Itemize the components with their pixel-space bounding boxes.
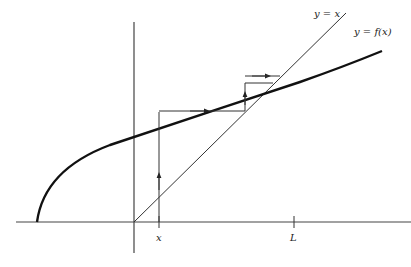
curve-label: y = f(x) (354, 26, 392, 37)
cobweb-diagram (0, 0, 411, 267)
x-tick-label: x (156, 232, 162, 243)
curve-f (37, 51, 382, 222)
diagonal-line (134, 13, 346, 222)
curve-f-stroke (37, 51, 382, 222)
L-tick-label: L (290, 232, 297, 243)
diagonal-label: y = x (314, 8, 340, 19)
